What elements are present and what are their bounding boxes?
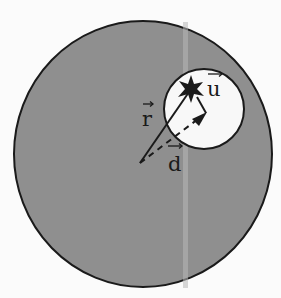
- diagram-canvas: r d u: [0, 0, 281, 298]
- label-r-text: r: [142, 107, 153, 131]
- label-d-text: d: [168, 152, 181, 176]
- scan-stripe: [183, 22, 188, 288]
- label-u-text: u: [207, 77, 221, 101]
- cavity-diagram: r d u: [0, 0, 281, 298]
- large-sphere: [14, 21, 272, 287]
